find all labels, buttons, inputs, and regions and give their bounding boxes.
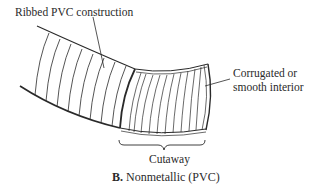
cutaway-edge — [120, 69, 135, 128]
ribbed-pvc-label: Ribbed PVC construction — [15, 6, 133, 19]
cutaway-label: Cutaway — [149, 153, 190, 166]
caption-letter: B. — [112, 170, 123, 184]
corrugated-label-line2: smooth interior — [233, 81, 304, 94]
corrugated-leader-line — [205, 79, 230, 86]
corrugated-label-line1: Corrugated or — [233, 67, 297, 80]
ribbed-leader-line — [93, 17, 104, 68]
caption-text: Nonmetallic (PVC) — [123, 170, 220, 184]
outer-ribs — [35, 33, 126, 126]
interior-corrugations — [129, 67, 201, 134]
cutaway-brace — [119, 140, 205, 150]
figure-caption: B. Nonmetallic (PVC) — [112, 171, 220, 184]
